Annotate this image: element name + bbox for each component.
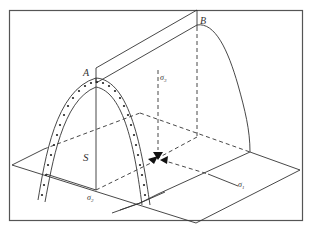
label-sigma3: σ3 [160, 73, 167, 83]
meridian-plane [96, 10, 197, 190]
frame-border [10, 11, 303, 221]
sigma1-axis-lines [112, 174, 238, 213]
yield-band-a [38, 78, 150, 205]
label-a: A [82, 67, 90, 78]
label-b: B [200, 15, 206, 26]
sigma2-arrowhead-icon [148, 156, 158, 164]
label-s: S [83, 151, 89, 163]
label-sigma2: σ2 [87, 193, 94, 203]
sigma1-arrowhead-icon [160, 156, 168, 164]
label-sigma1: σ1 [238, 180, 244, 190]
curve-b [197, 25, 250, 152]
diagram-canvas: A B S σ3 σ1 σ2 [0, 0, 311, 233]
dashed-projection-lines [44, 27, 250, 210]
